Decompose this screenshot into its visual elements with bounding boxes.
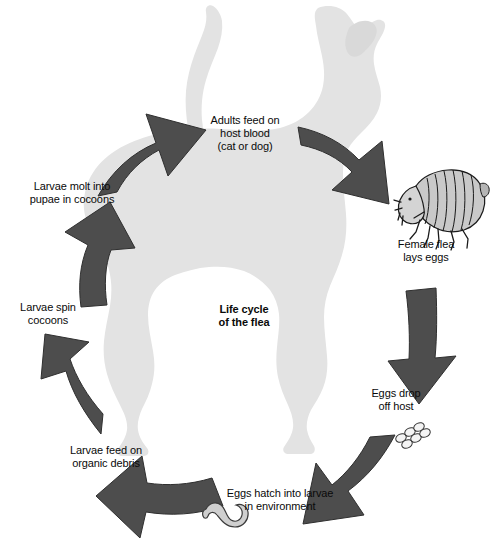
stage-label-larvae-molt: Larvae molt into pupae in cocoons xyxy=(14,180,130,206)
stage-label-adults-feed: Adults feed on host blood (cat or dog) xyxy=(191,114,299,153)
stage-label-larvae-spin: Larvae spin cocoons xyxy=(2,301,94,327)
stage-label-larvae-feed: Larvae feed on organic debris xyxy=(54,444,158,470)
stage-label-eggs-drop: Eggs drop off host xyxy=(352,387,440,413)
stage-label-eggs-hatch: Eggs hatch into larvae in environment xyxy=(212,487,348,513)
eggs-cluster xyxy=(394,421,431,450)
diagram-title: Life cycle of the flea xyxy=(196,303,292,329)
stage-label-female-lays-eggs: Female flea lays eggs xyxy=(372,238,480,264)
flea-life-cycle-diagram: Adults feed on host blood (cat or dog) F… xyxy=(0,0,490,541)
